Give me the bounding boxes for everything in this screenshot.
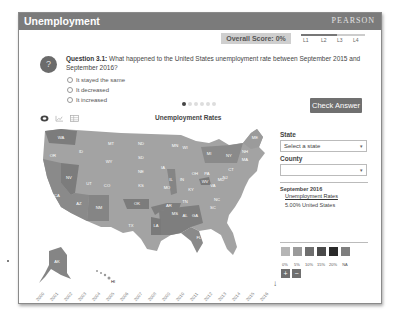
chevron-down-icon: ▾ (360, 141, 363, 151)
level-progress: L1 L2 L3 L4 (301, 34, 365, 44)
line-chart-icon[interactable] (55, 115, 64, 122)
year-tick[interactable]: 2012 (203, 291, 213, 302)
svg-text:TN: TN (182, 199, 188, 204)
svg-text:SC: SC (210, 205, 216, 210)
svg-text:MO: MO (164, 185, 171, 190)
year-tick[interactable]: 2014 (231, 291, 241, 302)
pager-dot-6[interactable] (212, 102, 216, 106)
year-tick[interactable]: 2001 (49, 291, 59, 302)
zoom-in-button[interactable]: + (281, 269, 290, 278)
county-select[interactable]: ▾ (280, 164, 367, 176)
svg-text:MA: MA (242, 157, 248, 162)
state-select-value: Select a state (284, 143, 320, 149)
year-tick[interactable]: 2015 (245, 291, 255, 302)
svg-text:UT: UT (86, 181, 92, 186)
year-tick[interactable]: 2000 (35, 291, 45, 302)
table-view-icon[interactable] (70, 115, 79, 122)
legend-swatch-5 (293, 247, 302, 256)
pager-dot-1[interactable] (182, 102, 186, 106)
map-view-icon[interactable] (40, 115, 49, 122)
question-text: Question 3.1: What happened to the Unite… (66, 54, 366, 72)
svg-text:IN: IN (180, 177, 184, 182)
state-select[interactable]: Select a state ▾ (280, 140, 367, 152)
svg-text:MI: MI (207, 151, 212, 156)
unemployment-rates-link[interactable]: Unemployment Rates (285, 193, 370, 199)
radio-button[interactable] (67, 77, 73, 83)
svg-text:KS: KS (138, 183, 144, 188)
side-panel: State Select a state ▾ County ▾ Septembe… (280, 131, 370, 208)
svg-text:WY: WY (106, 159, 113, 164)
question-number: Question 3.1: (66, 55, 107, 62)
state-label: State (280, 131, 370, 138)
legend-swatch-10 (305, 247, 314, 256)
year-tick[interactable]: 2003 (77, 291, 87, 302)
legend-label: 10% (304, 262, 314, 267)
legend-swatch-15 (317, 247, 326, 256)
radio-button[interactable] (67, 87, 73, 93)
divider (280, 242, 368, 243)
svg-text:ND: ND (138, 141, 144, 146)
svg-text:CA: CA (54, 193, 60, 198)
svg-text:CT: CT (228, 167, 234, 172)
brand-logo: PEARSON (332, 16, 375, 25)
level-4: L4 (353, 37, 359, 43)
us-choropleth-map[interactable]: WAORCA IDNVMT WYUTCO AZNMND SDNEKS OKTXM… (31, 123, 281, 288)
year-tick[interactable]: 2013 (217, 291, 227, 302)
us-rate-value: 5.00% United States (285, 202, 370, 208)
year-tick[interactable]: 2011 (189, 292, 199, 303)
svg-text:MT: MT (108, 141, 114, 146)
divider (280, 182, 368, 183)
state-az[interactable] (71, 193, 89, 221)
window-title: Unemployment (24, 15, 100, 27)
pager-dot-3[interactable] (194, 102, 198, 106)
svg-text:NY: NY (226, 153, 232, 158)
chevron-down-icon: ▾ (360, 165, 363, 175)
svg-text:WI: WI (182, 145, 187, 150)
info-box: September 2016 Unemployment Rates 5.00% … (280, 186, 370, 208)
year-tick[interactable]: 2010 (175, 291, 185, 302)
state-hi[interactable] (96, 270, 111, 280)
pager-dot-4[interactable] (200, 102, 204, 106)
pager-dot-2[interactable] (188, 102, 192, 106)
svg-text:IA: IA (161, 165, 165, 170)
year-timeline[interactable]: 2000 2001 2002 2003 2004 2005 2006 2007 … (29, 283, 279, 303)
svg-text:SD: SD (138, 155, 144, 160)
year-tick[interactable]: 2006 (119, 291, 129, 302)
state-ak[interactable] (39, 247, 71, 283)
svg-text:TX: TX (128, 223, 134, 228)
option-same[interactable]: It stayed the same (67, 75, 125, 85)
question-body: What happened to the United States unemp… (66, 55, 360, 71)
year-tick[interactable]: 2004 (91, 291, 101, 302)
check-answer-button[interactable]: Check Answer (310, 98, 362, 113)
svg-text:AL: AL (182, 213, 188, 218)
year-tick[interactable]: 2007 (133, 291, 143, 302)
svg-text:ME: ME (252, 135, 258, 140)
app-window: Unemployment PEARSON Overall Score: 0% L… (18, 12, 382, 304)
level-3: L3 (337, 37, 343, 43)
svg-text:FL: FL (197, 235, 203, 240)
svg-text:NC: NC (214, 197, 220, 202)
option-increased[interactable]: It increased (67, 95, 125, 105)
svg-text:MD: MD (218, 177, 225, 182)
year-tick[interactable]: 2008 (147, 291, 157, 302)
year-tick[interactable]: 2009 (161, 291, 171, 302)
option-decreased[interactable]: It decreased (67, 85, 125, 95)
timeline-marker-arrow-icon[interactable]: ↓ (273, 279, 277, 288)
year-tick[interactable]: 2002 (63, 291, 73, 302)
year-tick[interactable]: 2016 (259, 291, 269, 302)
color-legend (281, 247, 350, 256)
legend-swatch-20 (329, 247, 338, 256)
svg-text:OH: OH (192, 171, 198, 176)
svg-text:KY: KY (188, 187, 194, 192)
legend-label: 20% (328, 262, 338, 267)
svg-text:OR: OR (50, 153, 56, 158)
option-label: It stayed the same (76, 75, 125, 85)
svg-text:NH: NH (242, 149, 248, 154)
map-zoom-controls: + − (281, 269, 301, 278)
radio-button[interactable] (67, 97, 73, 103)
pager-dot-5[interactable] (206, 102, 210, 106)
svg-text:WA: WA (58, 135, 65, 140)
year-tick[interactable]: 2005 (105, 291, 115, 302)
question-pager (182, 102, 216, 106)
zoom-out-button[interactable]: − (292, 269, 301, 278)
